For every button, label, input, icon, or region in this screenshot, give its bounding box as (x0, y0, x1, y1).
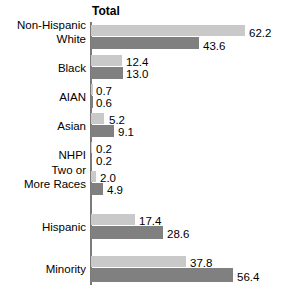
category-label-line: NHPI (59, 149, 86, 163)
value-label-asian-dark: 9.1 (118, 127, 134, 139)
value-label-non-hispanic-white-light: 62.2 (249, 28, 271, 40)
value-label-minority-dark: 56.4 (237, 272, 259, 284)
category-label-asian: Asian (57, 120, 86, 134)
bar-asian-dark[interactable] (91, 125, 114, 137)
category-label-aian: AIAN (59, 91, 86, 105)
value-label-black-light: 12.4 (126, 57, 148, 69)
category-label-non-hispanic-white: Non-Hispanic White (17, 19, 86, 46)
category-label-line: White (17, 33, 86, 47)
category-label-nhpi: NHPI (59, 149, 86, 163)
category-label-line: Non-Hispanic (17, 19, 86, 33)
category-label-line: AIAN (59, 91, 86, 105)
value-label-two-or-more-races-dark: 4.9 (107, 185, 123, 197)
bar-chart: Total Non-Hispanic White 62.2 43.6 Black… (0, 0, 298, 298)
category-label-two-or-more-races: Two or More Races (24, 164, 86, 191)
value-label-nhpi-dark: 0.2 (96, 156, 112, 168)
value-label-aian-dark: 0.6 (96, 98, 112, 110)
category-label-line: Black (58, 62, 86, 76)
bar-non-hispanic-white-light[interactable] (91, 25, 245, 36)
category-label-line: Asian (57, 120, 86, 134)
category-label-line: More Races (24, 178, 86, 192)
bar-hispanic-dark[interactable] (91, 226, 163, 239)
value-label-aian-light: 0.7 (96, 86, 112, 98)
bar-hispanic-light[interactable] (91, 214, 135, 225)
bar-aian-dark[interactable] (91, 96, 93, 108)
bar-non-hispanic-white-dark[interactable] (91, 37, 199, 49)
bar-two-or-more-races-dark[interactable] (91, 183, 103, 195)
bar-nhpi-dark[interactable] (91, 154, 92, 166)
category-label-hispanic: Hispanic (42, 221, 86, 235)
bar-aian-light[interactable] (91, 84, 93, 95)
value-label-hispanic-dark: 28.6 (167, 229, 189, 241)
category-label-line: Two or (24, 164, 86, 178)
value-label-black-dark: 13.0 (126, 69, 148, 81)
category-label-black: Black (58, 62, 86, 76)
category-label-line: Minority (46, 263, 86, 277)
bar-minority-dark[interactable] (91, 268, 233, 282)
value-label-nhpi-light: 0.2 (96, 144, 112, 156)
value-label-non-hispanic-white-dark: 43.6 (203, 41, 225, 53)
category-label-line: Hispanic (42, 221, 86, 235)
bar-black-dark[interactable] (91, 67, 123, 79)
bar-nhpi-light[interactable] (91, 142, 92, 153)
category-label-minority: Minority (46, 263, 86, 277)
bar-black-light[interactable] (91, 55, 122, 66)
bar-minority-light[interactable] (91, 256, 186, 267)
column-header-total: Total (92, 5, 120, 18)
bar-asian-light[interactable] (91, 113, 104, 124)
bar-two-or-more-races-light[interactable] (91, 171, 96, 182)
